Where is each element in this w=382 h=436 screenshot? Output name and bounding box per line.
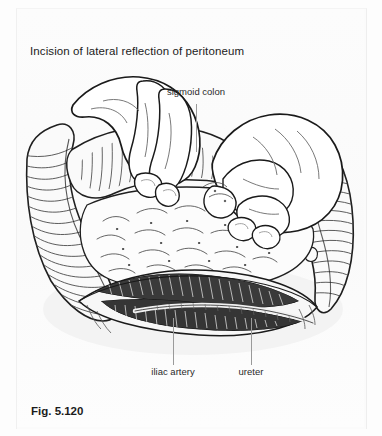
leader-line-sigmoid-colon [196,104,197,152]
leader-line-ureter [251,318,252,365]
figure-page: Incision of lateral reflection of perito… [0,0,382,436]
figure-title: Incision of lateral reflection of perito… [30,45,244,57]
figure-caption: Fig. 5.120 [31,405,83,417]
label-iliac-artery: iliac artery [151,366,194,377]
leader-line-iliac-artery [173,318,174,365]
label-sigmoid-colon: sigmoid colon [167,86,225,97]
surgical-illustration [17,9,364,427]
label-ureter: ureter [239,366,264,377]
